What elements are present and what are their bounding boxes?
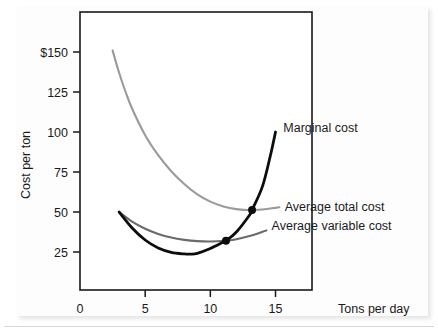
mc-crosses-avc-minimum: [222, 237, 230, 245]
y-tick-label-150: $150: [40, 46, 68, 60]
figure-page: 255075100125$150 051015 Cost per ton Ton…: [0, 0, 438, 333]
x-tick-label-15: 15: [269, 302, 283, 316]
y-tick-label-125: 125: [47, 86, 68, 100]
x-tick-label-5: 5: [142, 302, 149, 316]
x-axis-title: Tons per day: [338, 302, 410, 316]
y-tick-label-25: 25: [54, 246, 68, 260]
y-axis-title: Cost per ton: [19, 131, 33, 199]
average-variable-cost-label: Average variable cost: [272, 219, 393, 233]
mc-crosses-atc-minimum: [248, 206, 256, 214]
y-axis-tick-marks: [73, 52, 80, 252]
marginal-cost-label: Marginal cost: [283, 121, 358, 135]
x-axis-tick-marks: [145, 290, 275, 297]
y-tick-label-50: 50: [54, 206, 68, 220]
plot-frame: [80, 12, 312, 290]
average-total-cost-label: Average total cost: [285, 200, 385, 214]
page-bottom-divider: [4, 326, 434, 327]
y-tick-label-100: 100: [47, 126, 68, 140]
x-axis-tick-labels: 051015: [77, 302, 283, 316]
x-tick-label-10: 10: [203, 302, 217, 316]
y-axis-tick-labels: 255075100125$150: [40, 46, 68, 260]
cost-curves-chart: 255075100125$150 051015 Cost per ton Ton…: [0, 0, 438, 333]
y-tick-label-75: 75: [54, 166, 68, 180]
x-tick-label-0: 0: [77, 302, 84, 316]
